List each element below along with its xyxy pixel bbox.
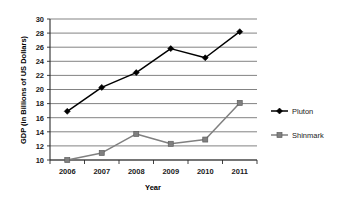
data-point-marker-square [168, 141, 173, 146]
y-tick-label: 18 [36, 99, 44, 108]
legend-label: Shinmark [292, 131, 324, 140]
data-point-marker-square [237, 100, 242, 105]
series-shinmark [65, 100, 243, 162]
y-tick-label: 24 [36, 57, 45, 66]
data-point-marker-square [65, 158, 70, 163]
x-tick-label: 2008 [128, 167, 145, 176]
data-point-marker-square [99, 150, 104, 155]
chart-container: 1012141618202224262830 20062007200820092… [0, 0, 349, 211]
y-tick-label: 10 [36, 156, 44, 165]
y-tick-label: 28 [36, 29, 44, 38]
x-tick-label: 2010 [197, 167, 214, 176]
y-tick-label: 22 [36, 71, 44, 80]
tick-marks-group [47, 19, 257, 164]
y-tick-label: 12 [36, 142, 44, 151]
x-tick-label: 2007 [93, 167, 110, 176]
x-tick-labels-group: 200620072008200920102011 [59, 167, 248, 176]
data-point-marker-square [277, 133, 282, 138]
y-tick-labels-group: 1012141618202224262830 [36, 15, 45, 165]
series-line [67, 32, 240, 112]
y-tick-label: 26 [36, 43, 44, 52]
legend: PlutonShinmark [271, 107, 324, 140]
y-tick-label: 20 [36, 85, 44, 94]
legend-item-shinmark[interactable]: Shinmark [271, 131, 324, 140]
y-axis-title: GDP (in Billions of US Dollars) [19, 35, 28, 144]
data-point-marker-diamond [277, 108, 283, 114]
data-point-marker-square [203, 137, 208, 142]
legend-item-pluton[interactable]: Pluton [271, 107, 313, 116]
x-tick-label: 2011 [232, 167, 248, 176]
series-pluton [64, 29, 243, 115]
data-point-marker-square [134, 131, 139, 136]
y-tick-label: 14 [36, 128, 45, 137]
x-tick-label: 2009 [162, 167, 179, 176]
y-tick-label: 16 [36, 114, 44, 123]
x-tick-label: 2006 [59, 167, 76, 176]
y-tick-label: 30 [36, 15, 44, 24]
legend-label: Pluton [292, 107, 313, 116]
x-axis-title: Year [145, 183, 161, 192]
line-chart: 1012141618202224262830 20062007200820092… [0, 0, 349, 211]
series-line [67, 103, 240, 160]
data-series-group [64, 29, 243, 163]
